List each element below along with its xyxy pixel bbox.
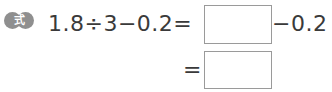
formula-badge: 式 (4, 12, 34, 29)
equation-line-1: 1.8÷3−0.2= (48, 11, 192, 37)
equation-line-1-tail: −0.2 (272, 11, 327, 37)
badge-label: 式 (4, 12, 34, 29)
answer-box-2[interactable] (204, 51, 272, 89)
answer-box-1[interactable] (204, 5, 272, 44)
equation-line-2-equals: = (183, 57, 202, 83)
